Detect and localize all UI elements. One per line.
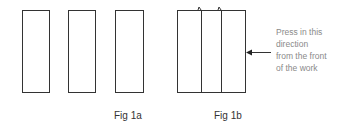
note-line: direction	[276, 38, 346, 50]
press-direction-note: Press in this direction from the front o…	[276, 26, 346, 74]
note-line: from the front	[276, 50, 346, 62]
fig1a-rect-1	[23, 11, 50, 93]
fig1b-caption: Fig 1b	[214, 110, 242, 121]
arrow-head-icon	[246, 50, 252, 56]
fold-tick-2	[218, 7, 221, 10]
note-line: Press in this	[276, 26, 346, 38]
fig1a-caption: Fig 1a	[114, 110, 142, 121]
fig1a-rect-3	[116, 11, 144, 93]
fold-tick-1	[198, 7, 201, 10]
note-line: of the work	[276, 62, 346, 74]
fig1b-outline	[178, 11, 246, 93]
fig1a-rect-2	[69, 11, 96, 93]
